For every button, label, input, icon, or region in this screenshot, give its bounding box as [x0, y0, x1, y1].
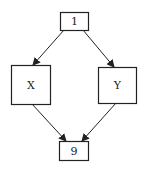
node-9: 9 [60, 142, 89, 161]
nodes: 1XY9 [12, 13, 137, 161]
node-label: X [27, 79, 35, 92]
node-1: 1 [61, 13, 89, 31]
node-y: Y [99, 68, 137, 104]
node-label: 9 [71, 145, 78, 158]
node-x: X [12, 66, 51, 105]
arrow-x-to-9 [32, 104, 66, 141]
arrow-y-to-9 [82, 103, 116, 141]
arrow-1-to-y [83, 30, 114, 67]
flow-diagram: 1XY9 [0, 0, 145, 169]
node-label: Y [113, 79, 122, 92]
arrow-1-to-x [33, 30, 64, 65]
node-label: 1 [71, 15, 78, 28]
